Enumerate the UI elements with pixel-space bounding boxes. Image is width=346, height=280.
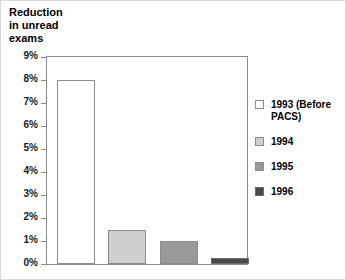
legend-item-label: 1996 [271, 186, 293, 197]
legend-item-label: 1994 [271, 136, 293, 147]
legend-swatch-icon [255, 187, 264, 196]
legend-swatch-icon [255, 137, 264, 146]
y-axis-tick-label: 7% [24, 96, 38, 107]
y-axis-tick-label: 1% [24, 234, 38, 245]
legend-item-1[interactable]: 1993 (Before PACS) [255, 99, 343, 123]
y-axis-tick-label: 4% [24, 165, 38, 176]
chart-container: Reduction in unread exams 0%1%2%3%4%5%6%… [0, 0, 346, 280]
y-axis-tick-label: 9% [24, 50, 38, 61]
bar-4 [211, 258, 249, 264]
legend-swatch-icon [255, 162, 264, 171]
legend-item-2[interactable]: 1994 [255, 136, 343, 148]
legend-item-label: 1993 (Before PACS) [271, 99, 331, 122]
legend-item-4[interactable]: 1996 [255, 186, 343, 198]
y-axis-tick-label: 3% [24, 188, 38, 199]
y-axis-tick-label: 5% [24, 142, 38, 153]
legend-item-label: 1995 [271, 161, 293, 172]
y-axis-tick-label: 8% [24, 73, 38, 84]
legend-swatch-icon [255, 100, 264, 109]
y-axis-tick-label: 0% [24, 257, 38, 268]
y-axis-tick-label: 2% [24, 211, 38, 222]
bar-series [46, 56, 248, 265]
chart-legend: 1993 (Before PACS)199419951996 [255, 99, 343, 211]
bar-2 [108, 230, 146, 265]
y-axis-tick-label: 6% [24, 119, 38, 130]
y-axis: 0%1%2%3%4%5%6%7%8%9% [1, 1, 46, 280]
bar-1 [57, 80, 95, 264]
bar-3 [160, 241, 198, 264]
legend-item-3[interactable]: 1995 [255, 161, 343, 173]
